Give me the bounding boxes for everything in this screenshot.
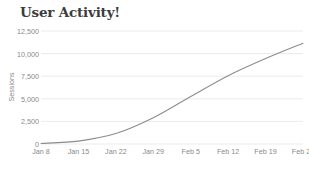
x-axis-tick: Jan 15: [68, 147, 90, 156]
x-axis-tick: Feb 12: [217, 147, 239, 156]
x-axis-tick: Jan 29: [142, 147, 164, 156]
x-axis-tick: Feb 5: [182, 147, 200, 156]
x-axis-tick: Feb 19: [254, 147, 276, 156]
grid-lines: [41, 31, 303, 144]
series-line-sessions: [41, 43, 303, 143]
chart-container: User Activity! Sessions 02,5005,0007,500…: [0, 0, 309, 173]
x-axis-tick: Feb 26: [292, 147, 309, 156]
x-axis-tick: Jan 22: [105, 147, 127, 156]
x-axis-tick: Jan 8: [32, 147, 50, 156]
